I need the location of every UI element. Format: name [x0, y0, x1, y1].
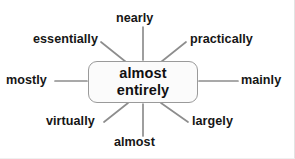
branch-label-virtually[interactable]: virtually	[46, 114, 95, 128]
branch-label-mainly[interactable]: mainly	[241, 73, 281, 87]
spoke-line-largely	[161, 103, 188, 122]
diagram-canvas: almost entirely nearly practically mainl…	[0, 0, 295, 159]
branch-label-essentially[interactable]: essentially	[33, 32, 98, 46]
spoke-line-practically	[161, 42, 186, 62]
center-node-line-2: entirely	[117, 82, 169, 99]
center-node[interactable]: almost entirely	[88, 61, 198, 103]
branch-label-nearly[interactable]: nearly	[116, 11, 153, 25]
branch-label-largely[interactable]: largely	[192, 114, 233, 128]
branch-label-mostly[interactable]: mostly	[6, 73, 47, 87]
branch-label-almost[interactable]: almost	[114, 135, 155, 149]
branch-label-practically[interactable]: practically	[190, 32, 253, 46]
center-node-line-1: almost	[119, 65, 166, 82]
spoke-line-virtually	[104, 103, 128, 122]
spoke-line-essentially	[101, 42, 126, 62]
